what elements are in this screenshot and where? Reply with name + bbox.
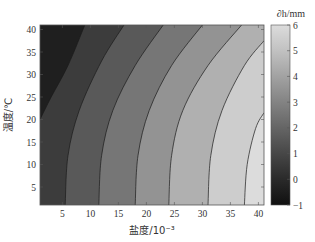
- x-tick-label: 25: [170, 209, 180, 219]
- x-tick-label: 35: [226, 209, 236, 219]
- y-tick-label: 25: [27, 93, 37, 103]
- y-tick-label: 5: [31, 183, 36, 193]
- colorbar-tick-label: −1: [293, 201, 303, 211]
- x-tick-label: 40: [254, 209, 264, 219]
- colorbar-tick-label: 6: [293, 21, 298, 31]
- y-tick-label: 30: [27, 70, 37, 80]
- colorbar-tick-label: 4: [293, 72, 298, 82]
- y-tick-label: 40: [27, 25, 37, 35]
- colorbar: [271, 25, 290, 205]
- colorbar-tick-label: 0: [293, 175, 298, 185]
- x-tick-label: 15: [114, 209, 124, 219]
- y-tick-label: 20: [27, 115, 37, 125]
- plot-area: [20, 5, 284, 225]
- x-tick-label: 30: [198, 209, 208, 219]
- x-tick-label: 20: [142, 209, 152, 219]
- y-tick-label: 35: [27, 48, 37, 58]
- y-tick-label: 10: [27, 160, 37, 170]
- y-axis-title: 温度/℃: [2, 98, 14, 133]
- colorbar-title: ∂h/mm: [277, 8, 305, 19]
- colorbar-tick-label: 5: [293, 46, 298, 56]
- x-tick-label: 5: [60, 209, 65, 219]
- colorbar-tick-label: 2: [293, 123, 298, 133]
- colorbar-tick-label: 1: [293, 149, 298, 159]
- contour-chart: 510152025303540 510152025303540 盐度/10⁻³ …: [0, 0, 315, 242]
- colorbar-tick-label: 3: [293, 98, 298, 108]
- x-tick-label: 10: [86, 209, 96, 219]
- x-axis-title: 盐度/10⁻³: [129, 224, 174, 236]
- y-tick-label: 15: [27, 138, 37, 148]
